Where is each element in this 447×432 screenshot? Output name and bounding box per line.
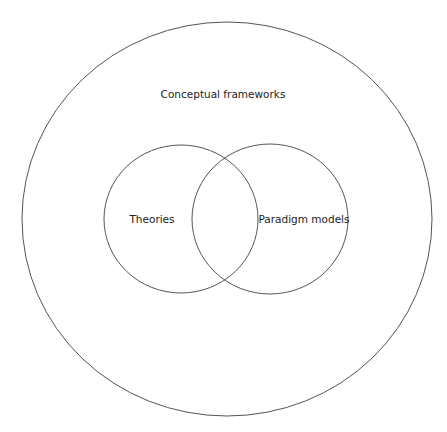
venn-diagram: Conceptual frameworks Theories Paradigm … (0, 0, 447, 432)
label-conceptual-frameworks: Conceptual frameworks (161, 88, 286, 100)
outer-circle-conceptual-frameworks (22, 22, 432, 416)
label-theories: Theories (128, 213, 174, 225)
circle-theories (104, 145, 258, 293)
label-paradigm-models: Paradigm models (258, 213, 349, 225)
